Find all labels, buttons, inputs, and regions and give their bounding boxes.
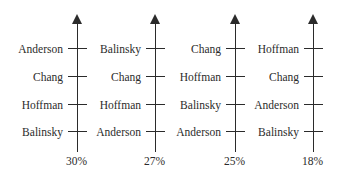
rank-label: Balinsky	[22, 126, 63, 138]
rank-entry: Hoffman	[236, 42, 304, 54]
rank-tick	[304, 48, 323, 49]
rank-label: Chang	[191, 43, 221, 55]
rank-tick	[304, 76, 323, 77]
rank-entry: Anderson	[236, 98, 304, 110]
rank-entry: Balinsky	[0, 125, 68, 137]
rank-label: Hoffman	[180, 71, 221, 83]
ballot-column-4: Hoffman Chang Anderson Balinsky 18%	[236, 0, 336, 180]
rank-entry: Balinsky	[158, 98, 226, 110]
percent-label: 18%	[236, 155, 323, 167]
rank-label: Balinsky	[180, 99, 221, 111]
rank-entry: Chang	[0, 70, 68, 82]
rank-label: Anderson	[176, 126, 221, 138]
preference-axis	[155, 22, 156, 152]
rank-tick	[304, 104, 323, 105]
rank-entry: Anderson	[158, 125, 226, 137]
preference-schedule-diagram: Anderson Chang Hoffman Balinsky 30% Bali…	[0, 0, 345, 180]
rank-entry: Balinsky	[236, 125, 304, 137]
percent-label: 30%	[0, 155, 87, 167]
rank-label: Chang	[33, 71, 63, 83]
rank-label: Hoffman	[258, 43, 299, 55]
rank-entry: Chang	[158, 42, 226, 54]
rank-label: Anderson	[96, 126, 141, 138]
rank-label: Chang	[269, 71, 299, 83]
rank-entry: Hoffman	[78, 98, 146, 110]
rank-entry: Chang	[236, 70, 304, 82]
rank-entry: Hoffman	[158, 70, 226, 82]
rank-entry: Anderson	[78, 125, 146, 137]
preference-axis	[313, 22, 314, 152]
percent-label: 25%	[158, 155, 245, 167]
rank-label: Chang	[111, 71, 141, 83]
rank-label: Balinsky	[100, 43, 141, 55]
rank-entry: Chang	[78, 70, 146, 82]
rank-label: Hoffman	[22, 99, 63, 111]
rank-label: Hoffman	[100, 99, 141, 111]
rank-entry: Hoffman	[0, 98, 68, 110]
rank-label: Anderson	[18, 43, 63, 55]
percent-label: 27%	[78, 155, 165, 167]
rank-tick	[304, 131, 323, 132]
rank-label: Anderson	[254, 99, 299, 111]
rank-entry: Balinsky	[78, 42, 146, 54]
rank-label: Balinsky	[258, 126, 299, 138]
rank-entry: Anderson	[0, 42, 68, 54]
